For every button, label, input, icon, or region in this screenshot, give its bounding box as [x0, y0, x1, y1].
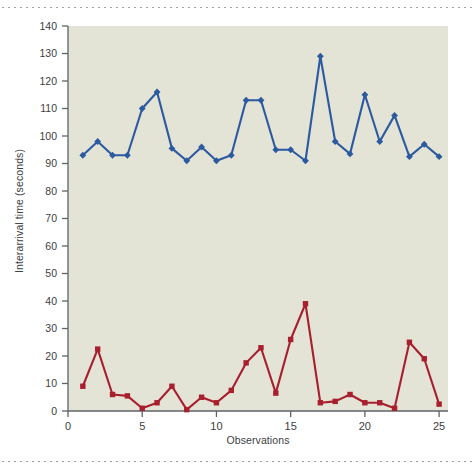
data-point-marker	[407, 340, 412, 345]
x-tick-label: 10	[210, 420, 222, 432]
y-tick-label: 130	[39, 47, 57, 59]
y-tick-label: 10	[45, 377, 57, 389]
y-tick-label: 120	[39, 75, 57, 87]
data-point-marker	[377, 400, 382, 405]
x-axis: 0510152025	[65, 411, 448, 432]
y-tick-label: 50	[45, 267, 57, 279]
data-point-marker	[288, 337, 293, 342]
data-point-marker	[80, 384, 85, 389]
data-point-marker	[214, 400, 219, 405]
data-point-marker	[362, 400, 367, 405]
data-point-marker	[184, 407, 189, 412]
y-tick-label: 60	[45, 240, 57, 252]
data-point-marker	[169, 384, 174, 389]
plot-background	[68, 26, 448, 411]
data-point-marker	[392, 406, 397, 411]
data-point-marker	[347, 392, 352, 397]
data-point-marker	[110, 392, 115, 397]
y-tick-label: 90	[45, 157, 57, 169]
data-point-marker	[318, 400, 323, 405]
x-tick-label: 0	[65, 420, 71, 432]
data-point-marker	[303, 301, 308, 306]
y-tick-label: 20	[45, 350, 57, 362]
data-point-marker	[422, 356, 427, 361]
data-point-marker	[258, 345, 263, 350]
x-axis-title: Observations	[68, 434, 448, 446]
x-tick-label: 15	[285, 420, 297, 432]
data-point-marker	[154, 400, 159, 405]
chart-figure: 0102030405060708090100110120130140 05101…	[0, 0, 476, 467]
x-tick-label: 5	[139, 420, 145, 432]
y-tick-label: 0	[51, 405, 57, 417]
y-axis-title: Interarrival time (seconds)	[13, 136, 25, 286]
data-point-marker	[95, 346, 100, 351]
data-point-marker	[436, 401, 441, 406]
data-point-marker	[243, 360, 248, 365]
y-tick-label: 70	[45, 212, 57, 224]
data-point-marker	[140, 406, 145, 411]
y-tick-label: 30	[45, 322, 57, 334]
y-tick-label: 80	[45, 185, 57, 197]
data-point-marker	[332, 399, 337, 404]
y-axis: 0102030405060708090100110120130140	[39, 20, 68, 417]
y-tick-label: 40	[45, 295, 57, 307]
data-point-marker	[273, 390, 278, 395]
data-point-marker	[125, 393, 130, 398]
data-point-marker	[229, 388, 234, 393]
data-point-marker	[199, 395, 204, 400]
y-tick-label: 100	[39, 130, 57, 142]
x-tick-label: 20	[359, 420, 371, 432]
y-tick-label: 110	[40, 102, 57, 114]
line-chart-plot: 0102030405060708090100110120130140 05101…	[0, 0, 476, 467]
y-tick-label: 140	[39, 20, 57, 32]
x-tick-label: 25	[433, 420, 445, 432]
